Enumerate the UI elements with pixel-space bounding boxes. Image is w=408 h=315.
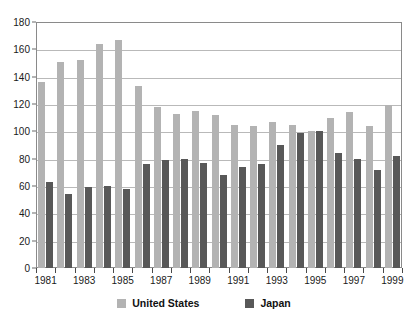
bar-united-states-1984 — [96, 44, 103, 268]
bar-japan-1992 — [258, 164, 265, 268]
x-axis-tick-1994 — [286, 268, 287, 273]
bar-united-states-1986 — [135, 86, 142, 268]
legend-label: United States — [132, 297, 199, 309]
bar-japan-1984 — [104, 186, 111, 268]
bar-group-1983 — [77, 22, 96, 268]
x-axis-tick-1988 — [171, 268, 172, 273]
x-axis-tick-1992 — [248, 268, 249, 273]
bar-chart-figure: 020406080100120140160180 198119831985198… — [0, 0, 408, 315]
bar-group-1999 — [385, 22, 404, 268]
bar-united-states-1987 — [154, 107, 161, 268]
x-axis-tick-1989 — [190, 268, 191, 273]
x-axis-tick-label-1981: 1981 — [35, 275, 57, 286]
bar-japan-1986 — [143, 164, 150, 268]
x-axis-tick-1993 — [267, 268, 268, 273]
bar-united-states-1983 — [77, 60, 84, 268]
bar-united-states-1991 — [231, 125, 238, 269]
y-axis-tick-label-160: 160 — [13, 44, 30, 55]
y-axis-tick-label-0: 0 — [24, 263, 30, 274]
y-axis-tick-label-120: 120 — [13, 99, 30, 110]
chart-legend: United StatesJapan — [0, 293, 408, 313]
x-axis-tick-label-1997: 1997 — [343, 275, 365, 286]
bar-japan-1983 — [85, 187, 92, 268]
x-axis-tick-label-1983: 1983 — [73, 275, 95, 286]
x-axis-tick-1998 — [363, 268, 364, 273]
x-axis-tick-1983 — [75, 268, 76, 273]
bar-united-states-1988 — [173, 114, 180, 268]
bar-group-1988 — [173, 22, 192, 268]
x-axis-tick-1997 — [344, 268, 345, 273]
x-axis: 1981198319851987198919911993199519971999 — [36, 268, 402, 292]
x-axis-tick-1990 — [209, 268, 210, 273]
bar-japan-1985 — [123, 189, 130, 268]
x-axis-tick-1981 — [36, 268, 37, 273]
y-axis-tick-label-20: 20 — [19, 235, 30, 246]
x-axis-tick-label-1987: 1987 — [150, 275, 172, 286]
y-axis-tick-label-180: 180 — [13, 17, 30, 28]
bar-united-states-1993 — [269, 122, 276, 268]
bar-japan-1989 — [200, 163, 207, 268]
legend-label: Japan — [260, 297, 290, 309]
bar-group-1981 — [38, 22, 57, 268]
y-axis-tick-label-40: 40 — [19, 208, 30, 219]
x-axis-tick-label-1995: 1995 — [304, 275, 326, 286]
x-axis-tick-1996 — [325, 268, 326, 273]
bar-united-states-1994 — [289, 125, 296, 269]
bar-group-1993 — [269, 22, 288, 268]
legend-item-japan: Japan — [245, 297, 290, 309]
bar-united-states-1998 — [366, 126, 373, 268]
x-axis-tick-1985 — [113, 268, 114, 273]
bar-group-1992 — [250, 22, 269, 268]
bar-group-1986 — [135, 22, 154, 268]
x-axis-tick-1995 — [306, 268, 307, 273]
bar-japan-1981 — [46, 182, 53, 268]
bar-group-1984 — [96, 22, 115, 268]
x-axis-tick-1982 — [55, 268, 56, 273]
bar-group-1998 — [366, 22, 385, 268]
bar-japan-1994 — [297, 133, 304, 268]
bar-group-1996 — [327, 22, 346, 268]
bar-group-1985 — [115, 22, 134, 268]
bar-united-states-1999 — [385, 105, 392, 268]
y-axis-tick-label-60: 60 — [19, 181, 30, 192]
bar-group-1982 — [57, 22, 76, 268]
bar-group-1991 — [231, 22, 250, 268]
legend-swatch-icon-united-states — [117, 299, 126, 308]
bar-united-states-1990 — [212, 115, 219, 268]
bar-united-states-1985 — [115, 40, 122, 268]
bar-japan-1982 — [65, 194, 72, 268]
y-axis: 020406080100120140160180 — [0, 0, 36, 290]
x-axis-tick-end — [402, 268, 403, 273]
bar-japan-1997 — [354, 159, 361, 268]
x-axis-tick-label-1989: 1989 — [189, 275, 211, 286]
x-axis-tick-1987 — [152, 268, 153, 273]
bars-layer — [36, 22, 402, 268]
x-axis-tick-1999 — [383, 268, 384, 273]
bar-group-1995 — [308, 22, 327, 268]
y-axis-tick-label-140: 140 — [13, 71, 30, 82]
bar-japan-1996 — [335, 153, 342, 268]
bar-japan-1995 — [316, 131, 323, 268]
bar-japan-1991 — [239, 167, 246, 268]
x-axis-tick-label-1993: 1993 — [266, 275, 288, 286]
bar-japan-1990 — [220, 175, 227, 268]
bar-group-1997 — [346, 22, 365, 268]
x-axis-tick-label-1999: 1999 — [381, 275, 403, 286]
x-axis-tick-label-1991: 1991 — [227, 275, 249, 286]
bar-group-1990 — [212, 22, 231, 268]
bar-united-states-1982 — [57, 62, 64, 268]
bar-united-states-1989 — [192, 111, 199, 268]
bar-united-states-1996 — [327, 118, 334, 268]
x-axis-tick-1991 — [229, 268, 230, 273]
bar-united-states-1997 — [346, 112, 353, 268]
x-axis-tick-label-1985: 1985 — [112, 275, 134, 286]
legend-item-united-states: United States — [117, 297, 199, 309]
bar-united-states-1995 — [308, 131, 315, 268]
bar-united-states-1981 — [38, 82, 45, 268]
bar-group-1987 — [154, 22, 173, 268]
bar-japan-1999 — [393, 156, 400, 268]
x-axis-tick-1986 — [132, 268, 133, 273]
bar-japan-1993 — [277, 145, 284, 268]
legend-swatch-icon-japan — [245, 299, 254, 308]
bar-group-1989 — [192, 22, 211, 268]
